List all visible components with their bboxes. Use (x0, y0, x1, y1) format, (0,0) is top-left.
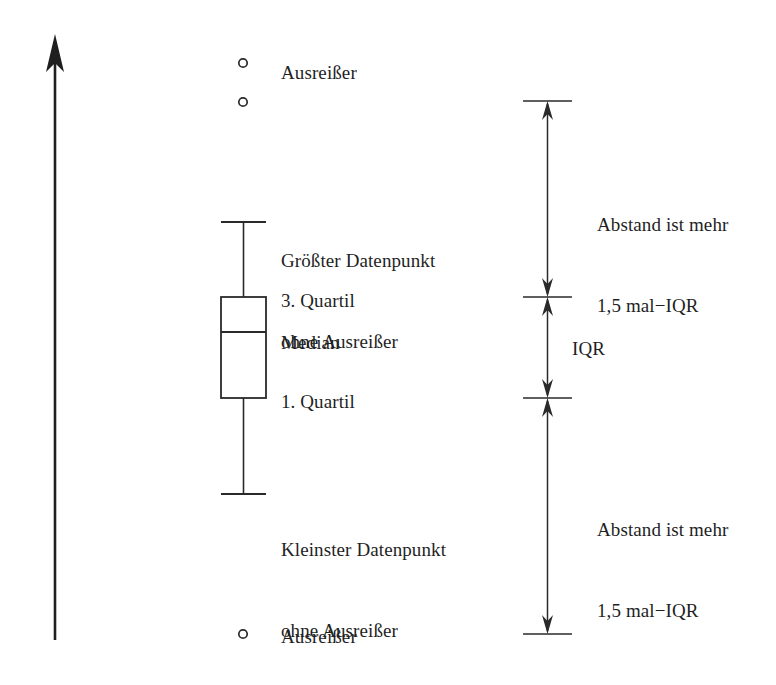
label-lower-gap: Abstand ist mehr 1,5 mal−IQR (597, 462, 728, 678)
label-upper-gap-line1: Abstand ist mehr (597, 211, 728, 238)
vertical-value-axis (46, 34, 64, 640)
box-whisker-shape (221, 222, 266, 494)
label-upper-gap: Abstand ist mehr 1,5 mal−IQR (597, 157, 728, 373)
outlier-marker-icon (239, 630, 247, 638)
boxplot-diagram: Ausreißer Größter Datenpunkt ohne Ausrei… (0, 0, 776, 685)
outlier-marker-icon (239, 98, 247, 106)
iqr-arrow (542, 297, 553, 398)
label-lower-gap-line1: Abstand ist mehr (597, 516, 728, 543)
outlier-points-upper (239, 59, 247, 106)
label-iqr: IQR (572, 336, 605, 362)
label-median: Median (281, 330, 340, 356)
label-third-quartile: 3. Quartil (281, 288, 355, 314)
label-upper-gap-line2: 1,5 mal−IQR (597, 292, 728, 319)
upper-gap-arrow (542, 101, 553, 297)
lower-gap-arrow (542, 398, 553, 634)
label-smallest-point-line1: Kleinster Datenpunkt (281, 536, 446, 563)
label-smallest-point: Kleinster Datenpunkt ohne Ausreißer (281, 482, 446, 685)
interquartile-box (221, 297, 266, 398)
label-lower-gap-line2: 1,5 mal−IQR (597, 597, 728, 624)
label-largest-point-line1: Größter Datenpunkt (281, 247, 435, 274)
outlier-marker-icon (239, 59, 247, 67)
outlier-points-lower (239, 630, 247, 638)
label-first-quartile: 1. Quartil (281, 389, 355, 415)
label-outlier-bottom: Ausreißer (281, 624, 357, 650)
label-outlier-top: Ausreißer (281, 60, 357, 86)
